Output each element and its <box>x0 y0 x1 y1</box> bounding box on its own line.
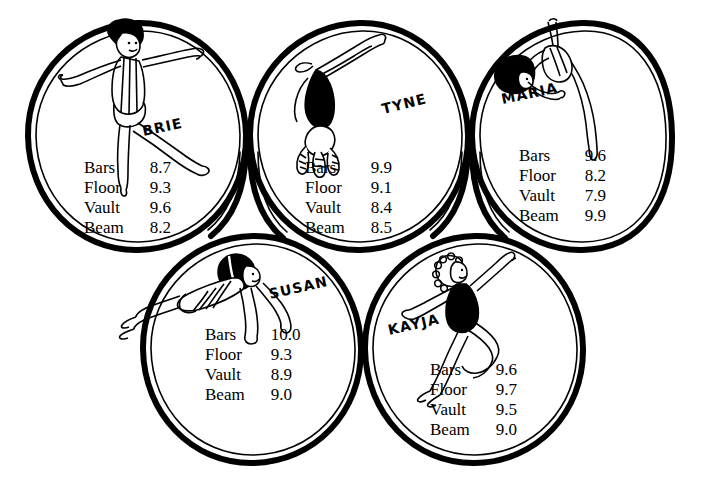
score-row: Bars 9.9 <box>305 158 392 178</box>
score-value: 9.0 <box>496 420 517 440</box>
score-event-label: Bars <box>84 158 150 178</box>
score-row: Bars 9.6 <box>519 146 606 166</box>
score-value: 8.4 <box>371 198 392 218</box>
score-row: Vault 9.6 <box>84 198 171 218</box>
score-value: 9.1 <box>371 178 392 198</box>
score-value: 8.2 <box>150 218 171 238</box>
score-event-label: Bars <box>305 158 371 178</box>
score-value: 9.6 <box>585 146 606 166</box>
score-event-label: Vault <box>519 186 585 206</box>
score-row: Floor 9.1 <box>305 178 392 198</box>
score-row: Beam 8.5 <box>305 218 392 238</box>
score-event-label: Bars <box>430 360 496 380</box>
score-value: 9.9 <box>371 158 392 178</box>
score-event-label: Beam <box>430 420 496 440</box>
score-table-tyne: Bars 9.9 Floor 9.1 Vault 8.4 Beam 8.5 <box>305 158 392 238</box>
gymnastics-rings-illustration: BRIE TYNE MARIA SUSAN KAYJA Bars 8.7 Flo… <box>0 0 702 495</box>
score-event-label: Beam <box>205 385 271 405</box>
score-event-label: Beam <box>305 218 371 238</box>
score-row: Bars 9.6 <box>430 360 517 380</box>
score-value: 10.0 <box>271 325 301 345</box>
score-value: 9.0 <box>271 385 301 405</box>
score-value: 9.9 <box>585 206 606 226</box>
score-table-brie: Bars 8.7 Floor 9.3 Vault 9.6 Beam 8.2 <box>84 158 171 238</box>
score-row: Beam 9.9 <box>519 206 606 226</box>
score-row: Floor 9.3 <box>205 345 300 365</box>
score-event-label: Vault <box>305 198 371 218</box>
score-event-label: Floor <box>430 380 496 400</box>
score-value: 8.9 <box>271 365 301 385</box>
score-event-label: Vault <box>84 198 150 218</box>
score-row: Vault 8.9 <box>205 365 300 385</box>
score-row: Vault 7.9 <box>519 186 606 206</box>
score-row: Vault 8.4 <box>305 198 392 218</box>
score-value: 8.5 <box>371 218 392 238</box>
score-event-label: Floor <box>205 345 271 365</box>
score-table-maria: Bars 9.6 Floor 8.2 Vault 7.9 Beam 9.9 <box>519 146 606 226</box>
score-value: 9.3 <box>150 178 171 198</box>
score-event-label: Floor <box>305 178 371 198</box>
score-event-label: Vault <box>205 365 271 385</box>
score-row: Floor 8.2 <box>519 166 606 186</box>
score-row: Beam 9.0 <box>430 420 517 440</box>
score-row: Beam 9.0 <box>205 385 300 405</box>
score-value: 9.6 <box>496 360 517 380</box>
score-row: Bars 8.7 <box>84 158 171 178</box>
score-event-label: Floor <box>84 178 150 198</box>
score-value: 9.3 <box>271 345 301 365</box>
score-value: 8.7 <box>150 158 171 178</box>
score-value: 7.9 <box>585 186 606 206</box>
score-value: 9.7 <box>496 380 517 400</box>
score-row: Floor 9.7 <box>430 380 517 400</box>
score-row: Beam 8.2 <box>84 218 171 238</box>
score-table-susan: Bars 10.0 Floor 9.3 Vault 8.9 Beam 9.0 <box>205 325 300 405</box>
score-value: 8.2 <box>585 166 606 186</box>
score-row: Floor 9.3 <box>84 178 171 198</box>
score-value: 9.5 <box>496 400 517 420</box>
score-event-label: Bars <box>519 146 585 166</box>
score-row: Bars 10.0 <box>205 325 300 345</box>
score-table-kayja: Bars 9.6 Floor 9.7 Vault 9.5 Beam 9.0 <box>430 360 517 440</box>
figure-tyne <box>295 34 386 177</box>
score-event-label: Beam <box>519 206 585 226</box>
score-event-label: Vault <box>430 400 496 420</box>
score-row: Vault 9.5 <box>430 400 517 420</box>
gymnast-figures <box>0 0 702 495</box>
score-event-label: Beam <box>84 218 150 238</box>
score-event-label: Floor <box>519 166 585 186</box>
score-value: 9.6 <box>150 198 171 218</box>
score-event-label: Bars <box>205 325 271 345</box>
